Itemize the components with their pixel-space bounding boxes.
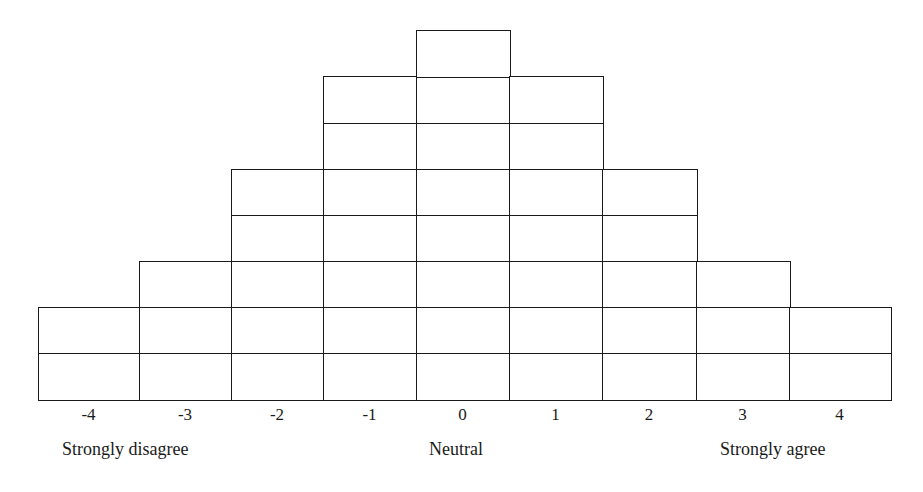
- grid-cell: [416, 169, 511, 217]
- column-label: 3: [713, 405, 773, 425]
- column-label: 1: [526, 405, 586, 425]
- column-label: -2: [247, 405, 307, 425]
- grid-cell: [696, 353, 791, 401]
- grid-cell: [323, 76, 418, 124]
- grid-cell: [323, 215, 418, 263]
- grid-cell: [509, 353, 604, 401]
- grid-cell: [416, 353, 511, 401]
- grid-cell: [416, 261, 511, 309]
- column-label: -1: [340, 405, 400, 425]
- grid-cell: [696, 307, 791, 355]
- grid-cell: [38, 353, 141, 401]
- grid-cell: [602, 307, 698, 355]
- grid-cell: [416, 307, 511, 355]
- anchor-neutral: Neutral: [429, 439, 483, 460]
- anchor-strongly-disagree: Strongly disagree: [62, 439, 188, 460]
- grid-cell: [323, 122, 418, 170]
- grid-cell: [38, 307, 141, 355]
- grid-cell: [416, 76, 511, 124]
- column-label: 2: [619, 405, 679, 425]
- grid-cell: [602, 169, 698, 217]
- grid-cell: [509, 169, 604, 217]
- grid-cell: [231, 261, 325, 309]
- grid-cell: [696, 261, 791, 309]
- grid-cell: [139, 261, 233, 309]
- grid-cell: [509, 261, 604, 309]
- grid-cell: [323, 261, 418, 309]
- grid-cell: [602, 261, 698, 309]
- grid-cell: [789, 307, 892, 355]
- grid-cell: [416, 30, 511, 78]
- grid-cell: [323, 169, 418, 217]
- grid-cell: [789, 353, 892, 401]
- grid-cell: [509, 76, 604, 124]
- column-label: -3: [155, 405, 215, 425]
- grid-cell: [416, 215, 511, 263]
- grid-cell: [323, 353, 418, 401]
- grid-cell: [323, 307, 418, 355]
- column-label: -4: [59, 405, 119, 425]
- grid-cell: [509, 215, 604, 263]
- grid-cell: [416, 122, 511, 170]
- grid-cell: [602, 215, 698, 263]
- grid-cell: [139, 353, 233, 401]
- column-label: 4: [810, 405, 870, 425]
- grid-cell: [602, 353, 698, 401]
- grid-cell: [231, 353, 325, 401]
- grid-cell: [231, 307, 325, 355]
- column-label: 0: [433, 405, 493, 425]
- anchor-strongly-agree: Strongly agree: [720, 439, 825, 460]
- grid-cell: [509, 307, 604, 355]
- grid-cell: [509, 122, 604, 170]
- grid-cell: [139, 307, 233, 355]
- grid-cell: [231, 169, 325, 217]
- grid-cell: [231, 215, 325, 263]
